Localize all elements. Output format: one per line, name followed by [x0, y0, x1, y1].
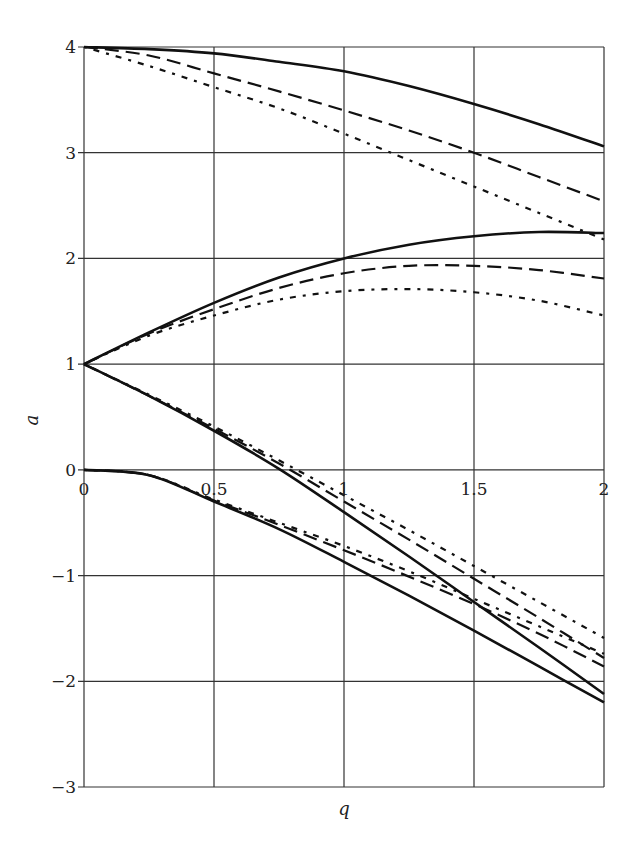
y-axis-ticks: 43210−1−2−3 [51, 37, 76, 797]
y-axis-label: a [21, 415, 42, 426]
x-tick-label: 2 [599, 479, 610, 499]
y-tick-label: 4 [65, 37, 76, 57]
x-tick-label: 0.5 [200, 479, 227, 499]
y-tick-label: 0 [65, 460, 76, 480]
y-tick-label: −1 [51, 566, 76, 586]
y-tick-label: −2 [51, 671, 76, 691]
grid-lines [78, 47, 604, 787]
y-tick-label: 2 [65, 248, 76, 268]
y-tick-label: 1 [65, 354, 76, 374]
x-tick-label: 0 [79, 479, 90, 499]
x-axis-ticks: 00.511.52 [79, 479, 610, 499]
x-tick-label: 1.5 [460, 479, 487, 499]
chart: 00.511.52 43210−1−2−3 q a [0, 0, 636, 853]
x-axis-label: q [338, 798, 350, 819]
y-tick-label: −3 [51, 777, 76, 797]
x-tick-label: 1 [339, 479, 350, 499]
y-tick-label: 3 [65, 143, 76, 163]
